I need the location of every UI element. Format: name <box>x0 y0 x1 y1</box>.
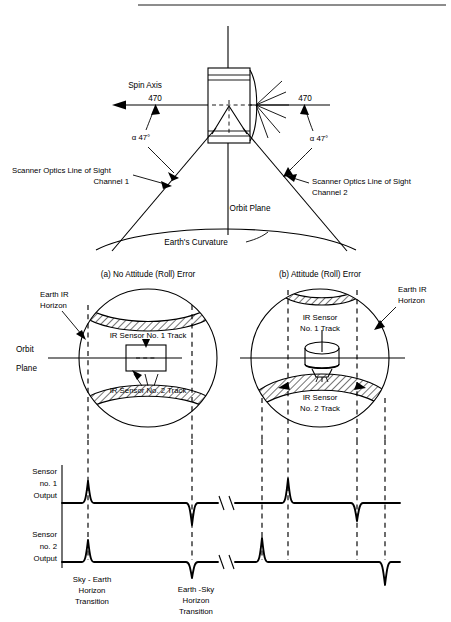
earth-ir-horizon-label-b-line2: Horizon <box>398 296 425 305</box>
waveform-panel: Sensor no. 1 Output Sensor no. 2 Output … <box>32 440 400 616</box>
earth-ir-horizon-leader-a <box>62 311 82 335</box>
disk-panels: (a) No Attitude (Roll) Error (b) Attitud… <box>16 270 427 440</box>
sensor1-output-label-line2: no. 1 <box>40 479 57 488</box>
cone-angle-arrowhead-right <box>300 104 309 115</box>
sensor2-output-label-line1: Sensor <box>32 530 57 539</box>
optics-v-path <box>212 106 247 134</box>
cone-marker-arrow-right <box>288 148 312 172</box>
sensor2-trace-right <box>235 538 400 585</box>
cone-marker-arrow-left <box>148 147 174 173</box>
sensor2-track-label-b-line2: No. 2 Track <box>300 404 340 413</box>
earth-ir-horizon-label-b-line1: Earth IR <box>398 285 427 294</box>
geometry-panel: Spin Axis 470 470 α 47° α 47° Scanner Op… <box>12 26 412 251</box>
cone-angle-arrowhead-left <box>151 104 160 115</box>
break-symbol-sensor2 <box>219 555 224 569</box>
los-channel-1-label-line1: Scanner Optics Line of Sight <box>12 166 112 175</box>
sensor1-output-label-line3: Output <box>34 491 58 500</box>
panel-a: IR Sensor No. 1 Track IR Sensor No. 2 Tr… <box>16 289 217 440</box>
sensor1-band-a <box>83 305 213 331</box>
sensor2-track-leaders-a <box>132 370 158 386</box>
earth-ir-horizon-label-a-line2: Horizon <box>40 301 67 310</box>
break-symbol-sensor2-b <box>229 555 234 569</box>
earth-sky-transition-line1: Earth -Sky <box>178 585 214 594</box>
los-channel-2-label-line2: Channel 2 <box>312 188 348 197</box>
break-symbol-sensor1 <box>219 496 224 510</box>
sensor1-trace-right <box>235 479 400 521</box>
angle-value-left: 470 <box>148 94 162 103</box>
sensor1-trace-left <box>62 481 218 525</box>
sensor2-track-label-b-line1: IR Sensor <box>303 393 338 402</box>
break-symbol-sensor1-b <box>229 496 234 510</box>
sensor1-track-label-b-line2: No. 1 Track <box>300 324 340 333</box>
sensor1-track-label-a: IR Sensor No. 1 Track <box>110 331 187 340</box>
earth-curvature-label: Earth's Curvature <box>164 238 228 247</box>
earth-curvature-leader <box>246 232 268 242</box>
orbit-plane-label-line2: Plane <box>16 364 37 373</box>
sensor1-track-label-b-line1: IR Sensor <box>303 313 338 322</box>
sky-earth-transition-line2: Horizon <box>79 586 106 595</box>
los-channel-1-label-line2: Channel 1 <box>93 177 129 186</box>
orbit-plane-label: Orbit Plane <box>230 204 271 213</box>
los-channel-2-leader <box>293 178 309 183</box>
ray-fan <box>256 81 289 138</box>
spin-axis-arrowhead <box>112 101 126 110</box>
angle-value-right: 470 <box>298 94 312 103</box>
orbit-plane-label-line1: Orbit <box>16 345 34 354</box>
sensor2-output-label-line2: no. 2 <box>40 542 57 551</box>
sky-earth-transition-line1: Sky - Earth <box>73 575 112 584</box>
cone-angle-left-label: α 47° <box>132 133 150 142</box>
sensor2-track-label-a: IR Sensor No. 2 Track <box>110 386 187 395</box>
caption-panel-a: (a) No Attitude (Roll) Error <box>101 270 196 279</box>
los-channel-1-leader <box>133 175 165 184</box>
earth-sky-transition-line3: Transition <box>179 607 213 616</box>
los-channel-2-label-line1: Scanner Optics Line of Sight <box>312 177 412 186</box>
sensor1-track-arrowhead-a <box>142 339 150 348</box>
panel-b: IR Sensor No. 1 Track IR Sensor No. 2 Tr… <box>240 285 427 440</box>
caption-panel-b: (b) Attitude (Roll) Error <box>279 270 361 279</box>
sensor1-output-label-line1: Sensor <box>32 467 57 476</box>
sensor1-band-b <box>283 288 360 305</box>
earth-ir-horizon-label-a-line1: Earth IR <box>40 290 69 299</box>
cone-angle-right-label: α 47° <box>310 134 328 143</box>
earth-ir-horizon-arrowhead-b <box>374 320 385 330</box>
sensor2-trace-left <box>62 540 218 578</box>
spin-axis-label: Spin Axis <box>128 81 162 90</box>
sky-earth-transition-line3: Transition <box>75 597 109 606</box>
sensor2-output-label-line3: Output <box>34 554 58 563</box>
earth-sky-transition-line2: Horizon <box>183 596 210 605</box>
figure-root: Spin Axis 470 470 α 47° α 47° Scanner Op… <box>0 0 451 622</box>
